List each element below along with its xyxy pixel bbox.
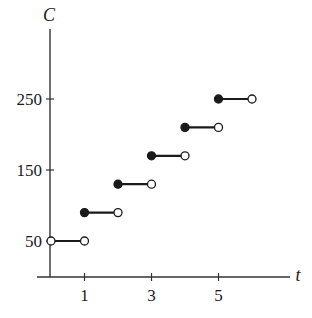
axes: C t bbox=[37, 5, 301, 285]
y-axis-label: C bbox=[43, 5, 56, 25]
closed-endpoint bbox=[181, 123, 189, 131]
step-segment bbox=[81, 209, 123, 217]
y-tick-label: 50 bbox=[25, 232, 42, 251]
x-tick-label: 3 bbox=[147, 286, 156, 305]
step-segments bbox=[47, 95, 256, 245]
x-ticks: 135 bbox=[80, 273, 223, 305]
step-function-chart: C t 135 50150250 bbox=[0, 0, 312, 318]
step-segment bbox=[215, 95, 257, 103]
open-endpoint bbox=[47, 237, 55, 245]
y-tick-label: 150 bbox=[17, 161, 43, 180]
open-endpoint bbox=[215, 123, 223, 131]
step-segment bbox=[47, 237, 89, 245]
step-segment bbox=[114, 180, 156, 188]
open-endpoint bbox=[148, 180, 156, 188]
open-endpoint bbox=[114, 209, 122, 217]
open-endpoint bbox=[181, 152, 189, 160]
step-segment bbox=[181, 123, 223, 131]
x-tick-label: 5 bbox=[214, 286, 223, 305]
step-segment bbox=[148, 152, 190, 160]
y-tick-label: 250 bbox=[17, 90, 43, 109]
y-ticks: 50150250 bbox=[17, 90, 55, 251]
closed-endpoint bbox=[148, 152, 156, 160]
x-tick-label: 1 bbox=[80, 286, 89, 305]
open-endpoint bbox=[248, 95, 256, 103]
open-endpoint bbox=[81, 237, 89, 245]
closed-endpoint bbox=[81, 209, 89, 217]
closed-endpoint bbox=[114, 180, 122, 188]
x-axis-label: t bbox=[295, 265, 301, 285]
closed-endpoint bbox=[215, 95, 223, 103]
